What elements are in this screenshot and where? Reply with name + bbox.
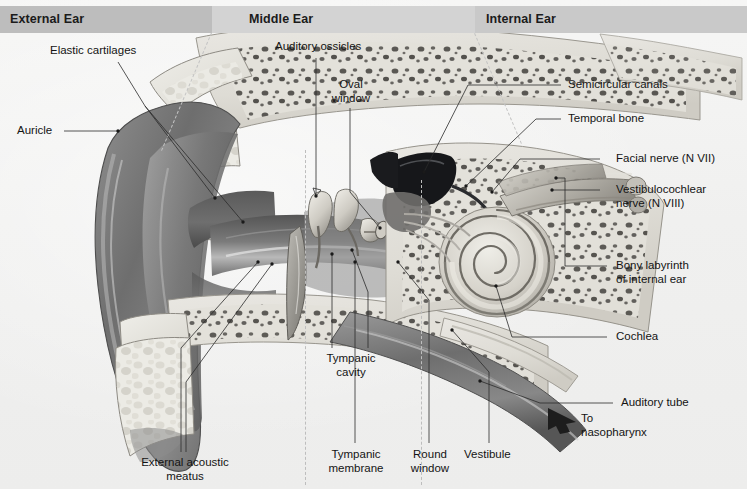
label-vestibulocochlear-line1: Vestibulocochlear xyxy=(616,183,706,197)
divider-middle-internal-vertical xyxy=(421,180,422,485)
label-to-nasopharynx: To nasopharynx xyxy=(581,412,647,439)
label-facial-nerve: Facial nerve (N VII) xyxy=(616,152,715,166)
label-tympanic-membrane-line2: membrane xyxy=(310,462,402,476)
label-round-window-line1: Round xyxy=(401,448,459,462)
label-to-nasopharynx-line2: nasopharynx xyxy=(581,426,647,440)
label-tympanic-cavity: Tympanic cavity xyxy=(318,352,384,379)
label-cochlea: Cochlea xyxy=(616,330,658,344)
region-label-external-ear: External Ear xyxy=(10,12,84,26)
label-auricle: Auricle xyxy=(17,124,52,138)
label-bony-labyrinth-line2: of internal ear xyxy=(616,273,689,287)
label-elastic-cartilages: Elastic cartilages xyxy=(50,44,136,58)
label-auditory-ossicles: Auditory ossicles xyxy=(275,40,361,54)
label-tympanic-membrane: Tympanic membrane xyxy=(310,448,402,475)
label-vestibulocochlear-line2: nerve (N VIII) xyxy=(616,197,706,211)
label-external-acoustic-line1: External acoustic xyxy=(128,456,242,470)
label-temporal-bone: Temporal bone xyxy=(568,112,644,126)
label-tympanic-cavity-line1: Tympanic xyxy=(318,352,384,366)
label-round-window: Round window xyxy=(401,448,459,475)
label-tympanic-cavity-line2: cavity xyxy=(318,366,384,380)
label-bony-labyrinth: Bony labyrinth of internal ear xyxy=(616,259,689,286)
label-tympanic-membrane-line1: Tympanic xyxy=(310,448,402,462)
label-round-window-line2: window xyxy=(401,462,459,476)
label-semicircular-canals: Semicircular canals xyxy=(568,78,668,92)
label-bony-labyrinth-line1: Bony labyrinth xyxy=(616,259,689,273)
label-oval-window: Oval window xyxy=(323,78,379,105)
region-label-middle-ear: Middle Ear xyxy=(249,12,313,26)
label-external-acoustic-meatus: External acoustic meatus xyxy=(128,456,242,483)
label-vestibulocochlear-nerve: Vestibulocochlear nerve (N VIII) xyxy=(616,183,706,210)
label-oval-window-line2: window xyxy=(323,92,379,106)
ear-anatomy-figure: External Ear Middle Ear Internal Ear xyxy=(0,0,747,489)
divider-external-middle-vertical xyxy=(305,150,306,485)
region-label-internal-ear: Internal Ear xyxy=(486,12,556,26)
label-to-nasopharynx-line1: To xyxy=(581,412,647,426)
label-oval-window-line1: Oval xyxy=(323,78,379,92)
label-vestibule: Vestibule xyxy=(464,448,511,462)
label-external-acoustic-line2: meatus xyxy=(128,470,242,484)
label-auditory-tube: Auditory tube xyxy=(621,396,689,410)
